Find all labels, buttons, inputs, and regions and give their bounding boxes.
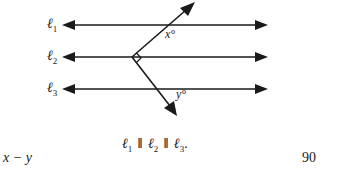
- angle-label-x: x°: [165, 28, 175, 40]
- ray-upper: [132, 2, 195, 57]
- ray-lower: [132, 57, 177, 116]
- line-l2: [62, 52, 268, 62]
- quantity-b: 90: [302, 150, 316, 166]
- quantity-a: x − y: [3, 150, 32, 166]
- label-l2: ℓ2: [47, 49, 57, 66]
- label-l3: ℓ3: [47, 81, 57, 98]
- angle-label-y: y°: [176, 88, 186, 100]
- parallel-caption: ℓ1 ‖ ℓ2 ‖ ℓ3.: [122, 136, 188, 154]
- label-l1: ℓ1: [47, 17, 57, 34]
- line-l3: [62, 84, 268, 94]
